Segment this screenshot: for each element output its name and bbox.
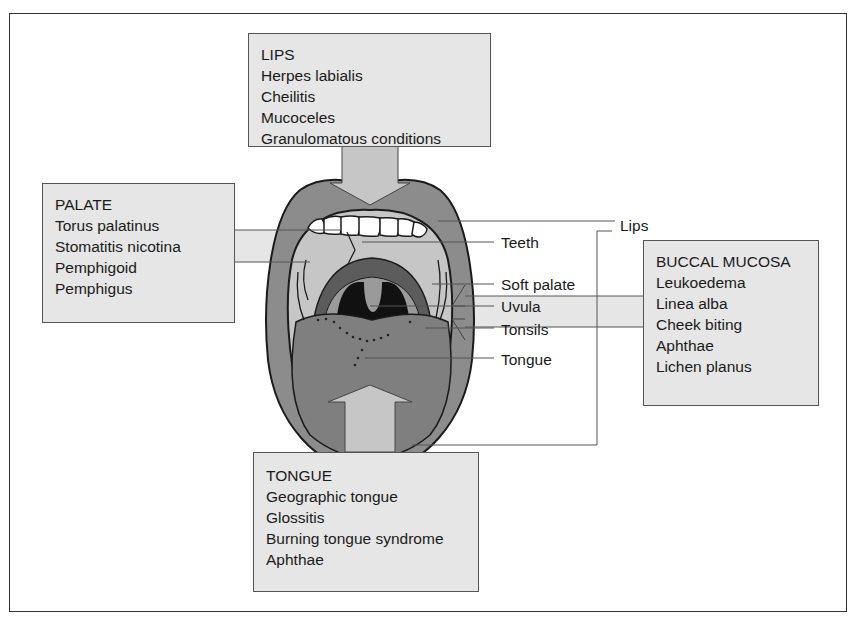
buccal-condition: Leukoedema bbox=[656, 272, 806, 293]
label-lips: Lips bbox=[620, 217, 648, 235]
tongue-condition: Aphthae bbox=[266, 549, 466, 570]
label-tonsils: Tonsils bbox=[501, 321, 548, 339]
lips-box: LIPS Herpes labialis Cheilitis Mucoceles… bbox=[248, 33, 491, 147]
palate-condition: Pemphigoid bbox=[55, 257, 222, 278]
buccal-condition: Cheek biting bbox=[656, 314, 806, 335]
buccal-condition: Aphthae bbox=[656, 335, 806, 356]
label-teeth: Teeth bbox=[501, 234, 539, 252]
lips-condition: Granulomatous conditions bbox=[261, 128, 478, 149]
lips-box-title: LIPS bbox=[261, 44, 478, 65]
palate-condition: Stomatitis nicotina bbox=[55, 236, 222, 257]
palate-box: PALATE Torus palatinus Stomatitis nicoti… bbox=[42, 183, 235, 323]
label-soft-palate: Soft palate bbox=[501, 276, 575, 294]
palate-box-title: PALATE bbox=[55, 194, 222, 215]
label-tongue: Tongue bbox=[501, 351, 552, 369]
label-uvula: Uvula bbox=[501, 298, 541, 316]
buccal-condition: Linea alba bbox=[656, 293, 806, 314]
tongue-condition: Glossitis bbox=[266, 507, 466, 528]
buccal-connector bbox=[462, 296, 643, 327]
tongue-condition: Geographic tongue bbox=[266, 486, 466, 507]
buccal-mucosa-box: BUCCAL MUCOSA Leukoedema Linea alba Chee… bbox=[643, 240, 819, 406]
tongue-box: TONGUE Geographic tongue Glossitis Burni… bbox=[253, 452, 479, 592]
palate-condition: Pemphigus bbox=[55, 278, 222, 299]
tongue-condition: Burning tongue syndrome bbox=[266, 528, 466, 549]
lips-condition: Herpes labialis bbox=[261, 65, 478, 86]
lips-condition: Mucoceles bbox=[261, 107, 478, 128]
buccal-box-title: BUCCAL MUCOSA bbox=[656, 251, 806, 272]
tongue-box-title: TONGUE bbox=[266, 465, 466, 486]
teeth bbox=[308, 216, 427, 237]
lips-condition: Cheilitis bbox=[261, 86, 478, 107]
palate-condition: Torus palatinus bbox=[55, 215, 222, 236]
buccal-condition: Lichen planus bbox=[656, 356, 806, 377]
